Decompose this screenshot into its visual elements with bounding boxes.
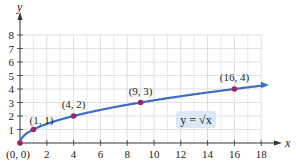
y-tick-label: 3: [9, 97, 15, 109]
point-label: (4, 2): [62, 98, 86, 111]
y-tick-label: 5: [9, 70, 15, 82]
point-label: (9, 3): [129, 85, 153, 98]
data-point: [17, 140, 23, 146]
x-tick-label: 18: [256, 148, 268, 160]
x-tick-label: 16: [229, 148, 241, 160]
data-point: [232, 86, 238, 92]
y-tick-label: 8: [9, 29, 15, 41]
y-tick-label: 4: [9, 83, 15, 95]
equation-label: y = √x: [176, 111, 216, 128]
x-tick-label: 6: [98, 148, 104, 160]
point-label: (1, 1): [29, 114, 53, 127]
x-tick-label: 2: [44, 148, 50, 160]
data-point: [138, 100, 144, 106]
y-tick-label: 2: [9, 110, 15, 122]
point-label: (16, 4): [220, 71, 250, 84]
equation-text: y = √x: [180, 113, 211, 127]
x-tick-label: 12: [175, 148, 186, 160]
x-axis-arrow-icon: [274, 141, 282, 146]
y-axis-label: y: [16, 0, 23, 14]
y-tick-label: 7: [9, 43, 15, 55]
chart: xy 2468101214161812345678 (0, 0)(1, 1)(4…: [0, 0, 296, 166]
x-tick-label: 10: [149, 148, 161, 160]
data-point: [31, 127, 37, 133]
data-point: [71, 113, 77, 119]
x-tick-label: 14: [202, 148, 214, 160]
y-tick-label: 6: [9, 56, 15, 68]
y-tick-label: 1: [9, 124, 15, 136]
x-tick-label: 8: [124, 148, 130, 160]
point-label: (0, 0): [6, 148, 30, 161]
curve-arrow-icon: [261, 82, 269, 88]
x-axis-label: x: [284, 136, 291, 150]
x-tick-label: 4: [71, 148, 77, 160]
axes: xy: [16, 0, 291, 150]
